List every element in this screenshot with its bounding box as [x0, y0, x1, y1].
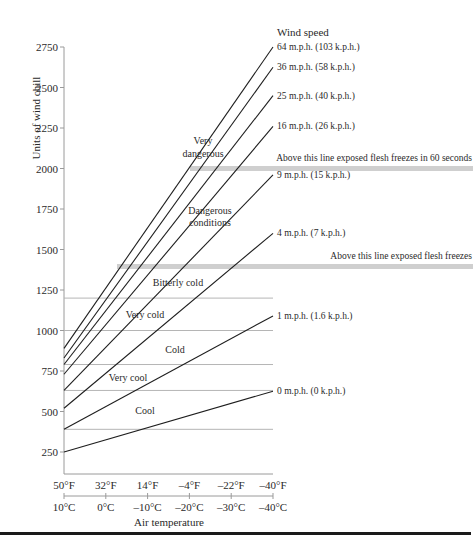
x-tick-label-c: –10°C — [132, 501, 161, 513]
y-tick-label: 2750 — [36, 41, 59, 53]
wind-speed-line — [64, 47, 273, 348]
x-tick-label-c: 0°C — [97, 501, 114, 513]
y-tick-label: 1250 — [36, 284, 59, 296]
zone-label-bitterly-cold: Bitterly cold — [153, 277, 203, 288]
x-tick-label-c: –20°C — [174, 501, 203, 513]
y-tick-label: 1500 — [36, 244, 59, 256]
wind-speed-label: 9 m.p.h. (15 k.p.h.) — [277, 170, 350, 181]
bottom-rule — [0, 532, 471, 535]
wind-speed-line — [64, 126, 273, 374]
y-tick-label: 250 — [42, 446, 59, 458]
wind-speed-label: 25 m.p.h. (40 k.p.h.) — [277, 91, 355, 102]
zone-label-dangerous-2: conditions — [189, 217, 231, 228]
legend-title: Wind speed — [277, 26, 329, 38]
band-freezes — [117, 264, 473, 269]
wind-speed-label: 4 m.p.h. (7 k.p.h.) — [277, 228, 345, 239]
zone-label-very-cold: Very cold — [126, 309, 165, 320]
x-tick-label-f: 50°F — [53, 479, 75, 491]
wind-speed-line — [64, 316, 273, 429]
y-tick-label: 2000 — [36, 163, 59, 175]
wind-speed-label: 16 m.p.h. (26 k.p.h.) — [277, 121, 355, 132]
wind-speed-label: 0 m.p.h. (0 k.p.h.) — [277, 386, 345, 397]
wind-speed-line — [64, 233, 273, 408]
wind-speed-line — [64, 391, 273, 452]
x-axis-title: Air temperature — [134, 516, 204, 528]
wind-speed-label: 1 m.p.h. (1.6 k.p.h.) — [277, 311, 352, 322]
wind-speed-line — [64, 67, 273, 358]
x-tick-label-f: 32°F — [95, 479, 117, 491]
zone-label-very-cool: Very cool — [109, 372, 148, 383]
band-freezes-label: Above this line exposed flesh freezes — [330, 251, 472, 261]
band-60-seconds-label: Above this line exposed flesh freezes in… — [276, 153, 472, 163]
x-tick-label-c: 10°C — [53, 501, 76, 513]
wind-speed-line — [64, 96, 273, 365]
zone-label-cold: Cold — [165, 344, 184, 355]
x-tick-label-f: –4°F — [178, 479, 201, 491]
x-tick-label-c: –40°C — [258, 501, 287, 513]
wind-speed-label: 36 m.p.h. (58 k.p.h.) — [277, 62, 355, 73]
x-tick-label-c: –30°C — [216, 501, 245, 513]
zone-label-cool: Cool — [135, 405, 155, 416]
wind-chill-chart: 2505007501000125015001750200022502500275… — [0, 0, 475, 552]
zone-label-dangerous-1: Dangerous — [188, 205, 231, 216]
zone-label-very-dangerous-1: Very — [194, 135, 213, 146]
y-tick-label: 750 — [42, 365, 59, 377]
x-tick-label-f: 14°F — [137, 479, 159, 491]
zone-threshold-lines — [64, 298, 273, 429]
y-tick-label: 1750 — [36, 203, 59, 215]
x-tick-label-f: –22°F — [217, 479, 245, 491]
x-tick-label-f: –40°F — [258, 479, 286, 491]
y-tick-label: 500 — [42, 406, 59, 418]
y-axis-title: Units of wind chill — [30, 77, 42, 160]
wind-speed-label: 64 m.p.h. (103 k.p.h.) — [277, 42, 360, 53]
y-tick-label: 1000 — [36, 325, 59, 337]
zone-label-very-dangerous-2: dangerous — [182, 148, 223, 159]
